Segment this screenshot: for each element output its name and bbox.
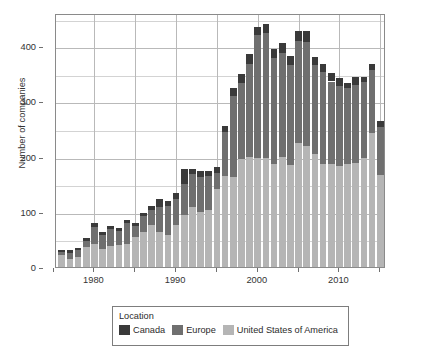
- bar-segment: [197, 171, 204, 177]
- bar-stack[interactable]: [156, 199, 163, 267]
- bar-segment: [91, 227, 98, 244]
- x-axis-tick-label: 1990: [155, 275, 195, 285]
- x-axis-tick: [379, 268, 380, 272]
- x-axis-tick: [93, 268, 94, 272]
- bar-segment: [132, 226, 139, 237]
- bar-stack[interactable]: [173, 193, 180, 267]
- bar-segment: [352, 85, 359, 163]
- bar-stack[interactable]: [320, 64, 327, 267]
- bar-segment: [132, 223, 139, 226]
- bar-stack[interactable]: [246, 54, 253, 267]
- bar-stack[interactable]: [99, 232, 106, 267]
- bar-stack[interactable]: [75, 248, 82, 267]
- bar-stack[interactable]: [124, 220, 131, 267]
- bar-stack[interactable]: [230, 88, 237, 267]
- legend-item[interactable]: Europe: [172, 325, 216, 335]
- x-axis-tick-label: 2000: [237, 275, 277, 285]
- x-axis-tick: [175, 268, 176, 272]
- chart-legend: Location CanadaEuropeUnited States of Am…: [112, 306, 349, 346]
- bar-segment: [116, 228, 123, 231]
- bar-segment: [230, 96, 237, 177]
- bar-segment: [303, 146, 310, 267]
- bar-segment: [197, 177, 204, 212]
- bar-segment: [181, 184, 188, 215]
- bar-segment: [271, 164, 278, 267]
- bar-segment: [303, 31, 310, 41]
- bar-stack[interactable]: [344, 83, 351, 267]
- bar-segment: [83, 241, 90, 248]
- bar-stack[interactable]: [312, 57, 319, 267]
- bar-stack[interactable]: [165, 201, 172, 267]
- bar-segment: [287, 56, 294, 65]
- bar-stack[interactable]: [214, 167, 221, 267]
- bar-stack[interactable]: [254, 27, 261, 267]
- bar-stack[interactable]: [148, 206, 155, 267]
- bar-segment: [189, 169, 196, 174]
- bar-stack[interactable]: [303, 31, 310, 267]
- bar-segment: [344, 83, 351, 88]
- bar-stack[interactable]: [189, 169, 196, 267]
- y-axis-tick-label: 200: [0, 153, 36, 163]
- legend-swatch-icon: [119, 325, 130, 335]
- bar-stack[interactable]: [83, 238, 90, 267]
- bar-stack[interactable]: [328, 73, 335, 267]
- bar-stack[interactable]: [107, 226, 114, 267]
- bar-segment: [148, 225, 155, 267]
- x-axis-tick: [134, 268, 135, 272]
- bar-segment: [352, 77, 359, 85]
- bar-segment: [124, 220, 131, 223]
- bar-stack[interactable]: [336, 78, 343, 267]
- bar-segment: [279, 43, 286, 52]
- bar-stack[interactable]: [67, 250, 74, 267]
- x-axis-tick-label: 2010: [318, 275, 358, 285]
- bar-stack[interactable]: [279, 43, 286, 267]
- y-axis-tick: [39, 47, 43, 48]
- bar-segment: [279, 157, 286, 267]
- bar-stack[interactable]: [91, 223, 98, 267]
- bar-segment: [91, 223, 98, 227]
- bar-segment: [58, 250, 65, 252]
- bar-stack[interactable]: [197, 171, 204, 267]
- bar-stack[interactable]: [263, 24, 270, 267]
- bar-segment: [83, 247, 90, 267]
- bar-segment: [336, 78, 343, 86]
- bar-segment: [140, 216, 147, 231]
- bar-stack[interactable]: [377, 121, 384, 267]
- bar-stack[interactable]: [58, 250, 65, 267]
- bar-stack[interactable]: [271, 49, 278, 267]
- bar-segment: [140, 232, 147, 267]
- x-axis-tick: [216, 268, 217, 272]
- legend-item-label: Europe: [186, 325, 216, 335]
- bar-stack[interactable]: [181, 169, 188, 267]
- y-axis-tick: [39, 102, 43, 103]
- bar-stack[interactable]: [287, 56, 294, 267]
- bar-segment: [181, 169, 188, 184]
- bar-stack[interactable]: [140, 213, 147, 267]
- bar-segment: [124, 244, 131, 267]
- bar-segment: [271, 49, 278, 58]
- bar-segment: [312, 154, 319, 267]
- bar-stack[interactable]: [205, 171, 212, 267]
- bar-segment: [189, 207, 196, 267]
- bar-stack[interactable]: [238, 74, 245, 267]
- bar-segment: [320, 164, 327, 267]
- bar-stack[interactable]: [361, 77, 368, 268]
- bar-segment: [238, 74, 245, 83]
- bar-stack[interactable]: [369, 64, 376, 267]
- legend-item[interactable]: United States of America: [223, 325, 338, 335]
- bar-stack[interactable]: [352, 77, 359, 268]
- bar-stack[interactable]: [116, 228, 123, 267]
- bar-segment: [99, 232, 106, 235]
- bar-segment: [214, 173, 221, 189]
- bar-stack[interactable]: [295, 31, 302, 267]
- x-axis-tick: [338, 268, 339, 272]
- bar-segment: [173, 199, 180, 224]
- bar-stack[interactable]: [222, 126, 229, 267]
- bar-segment: [189, 174, 196, 207]
- bar-segment: [156, 232, 163, 267]
- legend-item[interactable]: Canada: [119, 325, 165, 335]
- bar-segment: [124, 223, 131, 244]
- bar-segment: [361, 77, 368, 83]
- bar-segment: [320, 72, 327, 164]
- bar-stack[interactable]: [132, 223, 139, 267]
